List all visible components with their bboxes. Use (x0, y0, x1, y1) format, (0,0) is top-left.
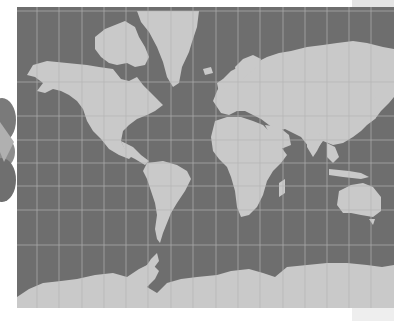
bottom-right-edge (352, 308, 394, 321)
left-edge-globe-fragment (0, 92, 17, 204)
world-map[interactable] (17, 7, 394, 308)
